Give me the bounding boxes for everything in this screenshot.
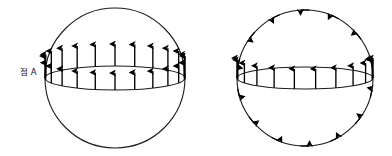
equator-row-arrow-group (237, 58, 373, 89)
circumference-arrow-group (238, 10, 373, 146)
circumference-tangent-arrow (355, 117, 361, 124)
circumference-tangent-arrow (249, 32, 255, 39)
physics-sphere-vector-figure: 점 A 점 A (0, 0, 392, 156)
front-row-arrow-group (46, 63, 185, 90)
back-row-arrow-group (45, 44, 185, 78)
circumference-tangent-arrow (330, 15, 338, 19)
circumference-tangent-arrow (271, 137, 279, 141)
circumference-tangent-arrow (238, 89, 240, 98)
circumference-tangent-arrow (249, 117, 255, 124)
left-sphere-svg (0, 0, 196, 156)
diagram-panel-right: 점 A (196, 0, 392, 156)
diagram-panel-left: 점 A (0, 0, 196, 156)
circumference-tangent-arrow (355, 32, 361, 39)
circumference-tangent-arrow (271, 15, 279, 19)
circumference-tangent-arrow (330, 137, 338, 141)
circumference-tangent-arrow (370, 89, 372, 98)
point-a-label-left: 점 A (20, 68, 37, 77)
right-sphere-svg (196, 0, 392, 156)
